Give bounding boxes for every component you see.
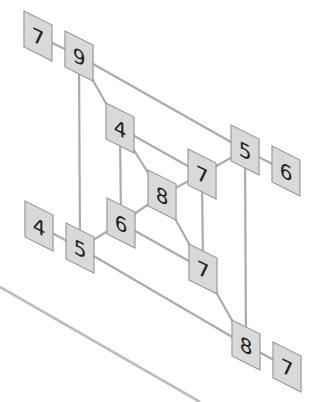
decorative-lines bbox=[0, 287, 200, 402]
node-inner-bottom-left: 6 bbox=[107, 198, 135, 248]
edge-outer-top-left-outer-bottom-left bbox=[79, 56, 80, 248]
node-inner-top-left: 4 bbox=[106, 103, 134, 153]
edge-outer-top-left-outer-top-right bbox=[79, 56, 245, 150]
node-ext-bottom-left: 4 bbox=[25, 201, 53, 251]
node-center: 8 bbox=[148, 170, 176, 220]
node-outer-top-right: 5 bbox=[231, 125, 259, 175]
node-ext-top-left: 7 bbox=[24, 11, 52, 61]
graph-diagram: 7948756456787 bbox=[0, 0, 312, 402]
node-ext-bottom-right: 7 bbox=[273, 342, 301, 392]
graph-nodes: 7948756456787 bbox=[24, 11, 301, 392]
node-inner-top-right: 7 bbox=[188, 149, 216, 199]
decorative-line bbox=[0, 287, 200, 402]
node-outer-top-left: 9 bbox=[65, 31, 93, 81]
node-outer-bottom-right: 8 bbox=[232, 320, 260, 370]
node-outer-bottom-left: 5 bbox=[66, 223, 94, 273]
edge-outer-bottom-left-outer-bottom-right bbox=[80, 248, 246, 345]
node-inner-bottom-right: 7 bbox=[189, 244, 217, 294]
node-ext-top-right: 6 bbox=[272, 146, 300, 196]
edge-outer-top-right-outer-bottom-right bbox=[245, 150, 246, 345]
